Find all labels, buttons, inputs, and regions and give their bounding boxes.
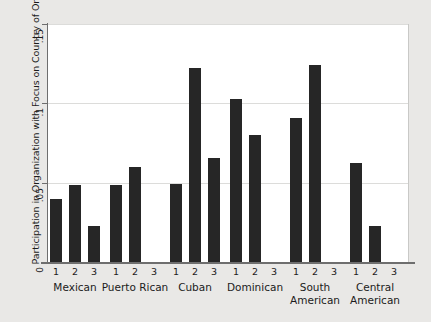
wave-label: 1 <box>226 266 246 277</box>
bar <box>290 118 302 262</box>
y-tick-mark <box>42 262 48 263</box>
bar <box>350 163 362 262</box>
wave-label: 2 <box>365 266 385 277</box>
y-tick-label-wrap: .05 <box>0 183 40 184</box>
bar <box>208 158 220 262</box>
bar <box>189 68 201 262</box>
wave-label: 1 <box>166 266 186 277</box>
bar <box>129 167 141 262</box>
y-tick-label: .1 <box>35 108 45 117</box>
bar <box>170 184 182 262</box>
bar <box>110 185 122 262</box>
group-label-line: American <box>350 294 400 306</box>
group-label: CentralAmerican <box>310 281 431 306</box>
x-axis-line <box>41 262 415 264</box>
y-tick-label: .15 <box>35 29 45 43</box>
y-tick-label-wrap: .1 <box>0 103 40 104</box>
wave-label: 2 <box>185 266 205 277</box>
wave-label: 2 <box>305 266 325 277</box>
bar-series-container <box>48 24 408 262</box>
wave-label: 1 <box>106 266 126 277</box>
y-tick-label-wrap: .15 <box>0 24 40 25</box>
bar <box>88 226 100 262</box>
bar-chart-figure: Participation in Organization with Focus… <box>0 0 431 322</box>
group-label-line: Central <box>356 281 394 293</box>
y-tick-label: .05 <box>35 188 45 202</box>
bar <box>69 185 81 262</box>
wave-label: 2 <box>125 266 145 277</box>
wave-label: 1 <box>46 266 66 277</box>
wave-label: 2 <box>65 266 85 277</box>
bar <box>309 65 321 262</box>
wave-label: 3 <box>84 266 104 277</box>
bar <box>369 226 381 262</box>
bar <box>230 99 242 262</box>
wave-label: 3 <box>204 266 224 277</box>
wave-label: 3 <box>264 266 284 277</box>
y-tick-label-wrap: 0 <box>0 262 40 263</box>
bar <box>249 135 261 262</box>
wave-label: 1 <box>346 266 366 277</box>
wave-label: 1 <box>286 266 306 277</box>
bar <box>50 199 62 262</box>
wave-label: 3 <box>324 266 344 277</box>
wave-label: 3 <box>144 266 164 277</box>
y-tick-label: 0 <box>35 267 45 273</box>
wave-label: 3 <box>384 266 404 277</box>
wave-label: 2 <box>245 266 265 277</box>
